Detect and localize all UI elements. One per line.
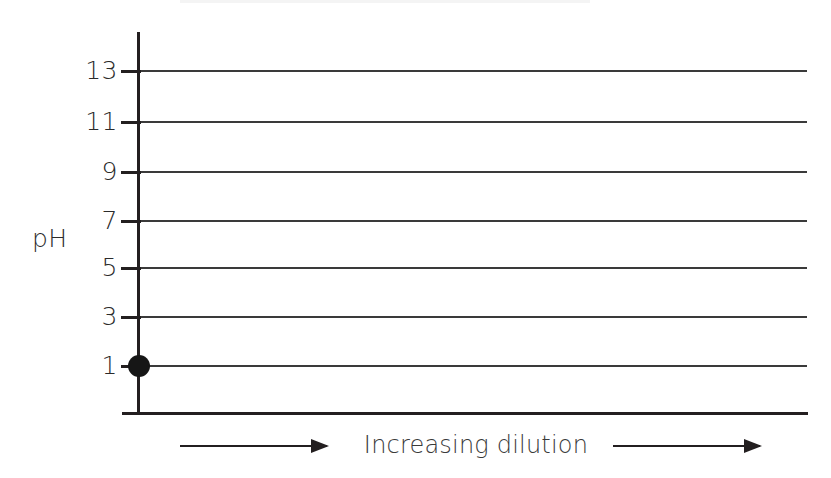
x-axis-annotation: Increasing dilution [0,430,831,466]
ph-dilution-chart: 13 11 9 7 5 3 1 pH Increasing dilution [0,0,831,478]
tick-label-13: 13 [58,58,118,83]
gridline-3 [138,316,807,318]
x-axis-line [122,412,808,415]
data-point-ph-1 [128,355,150,377]
gridline-1 [138,365,807,367]
gridline-13 [138,70,807,72]
arrow-right-icon-right [613,445,760,447]
gridline-11 [138,121,807,123]
gridline-5 [138,267,807,269]
gridline-9 [138,171,807,173]
tick-label-1: 1 [58,353,118,378]
tick-label-5: 5 [58,255,118,280]
x-axis-annotation-label: Increasing dilution [363,430,589,460]
gridline-7 [138,220,807,222]
tick-label-11: 11 [58,109,118,134]
tick-label-9: 9 [58,159,118,184]
arrow-right-icon-left [180,445,327,447]
plot-area: 13 11 9 7 5 3 1 pH [0,0,831,478]
tick-label-3: 3 [58,304,118,329]
y-axis-title: pH [32,226,67,251]
